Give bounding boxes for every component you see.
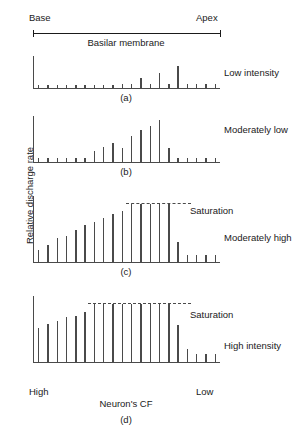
panel-d-saturation-label: Saturation <box>190 309 233 320</box>
bar <box>140 78 141 88</box>
bar <box>215 354 216 362</box>
bar <box>84 158 85 162</box>
panel-d-bars <box>34 296 220 362</box>
bar <box>150 304 151 362</box>
panel-b: Moderately low (b) <box>0 116 298 182</box>
panel-c: Saturation Moderately high (c) <box>0 196 298 282</box>
bar <box>66 317 67 362</box>
bar <box>196 255 197 262</box>
bar <box>66 158 67 162</box>
bar <box>187 84 188 88</box>
panel-a-plot <box>33 56 220 89</box>
bar <box>131 136 132 162</box>
bar <box>122 148 123 162</box>
bar <box>196 354 197 362</box>
bar <box>103 218 104 262</box>
bar <box>75 158 76 162</box>
bar <box>122 211 123 262</box>
bar <box>84 312 85 362</box>
bar <box>131 204 132 262</box>
bar <box>38 328 39 362</box>
bar <box>122 304 123 362</box>
panel-b-plot <box>33 116 220 163</box>
panel-d-plot <box>33 296 220 363</box>
x-axis-left-label: High <box>29 386 49 397</box>
bar <box>94 222 95 262</box>
panel-c-letter: (c) <box>33 266 219 277</box>
bar <box>177 66 178 88</box>
bar <box>159 204 160 262</box>
bar <box>112 214 113 262</box>
bar <box>57 238 58 262</box>
bar <box>205 255 206 262</box>
bar <box>75 85 76 88</box>
bar <box>112 304 113 362</box>
bar <box>177 242 178 262</box>
bar <box>150 126 151 162</box>
bar <box>112 85 113 88</box>
bar <box>215 84 216 88</box>
bar <box>159 120 160 162</box>
bar <box>75 230 76 262</box>
bar <box>84 85 85 88</box>
bar <box>196 158 197 162</box>
membrane-extent-bar <box>33 30 221 37</box>
bar <box>215 158 216 162</box>
bar <box>168 204 169 262</box>
bar <box>168 84 169 88</box>
bar <box>47 158 48 162</box>
bar <box>177 158 178 162</box>
membrane-rule <box>34 33 220 34</box>
bar <box>187 158 188 162</box>
bar <box>47 245 48 262</box>
panel-c-intensity-label: Moderately high <box>224 232 292 243</box>
bar <box>140 304 141 362</box>
panel-b-bars <box>34 116 220 162</box>
saturation-line <box>126 203 191 204</box>
bar <box>168 148 169 162</box>
bar <box>159 73 160 88</box>
bar <box>103 304 104 362</box>
bar <box>205 84 206 88</box>
bar <box>205 354 206 362</box>
bar <box>140 204 141 262</box>
panel-d-intensity-label: High intensity <box>224 340 281 351</box>
base-label: Base <box>29 12 51 23</box>
bar <box>150 84 151 88</box>
bar <box>47 85 48 88</box>
bar <box>47 324 48 362</box>
bar <box>75 316 76 362</box>
bar <box>57 85 58 88</box>
bar <box>66 236 67 262</box>
bar <box>205 158 206 162</box>
bar <box>187 255 188 262</box>
x-axis-right-label: Low <box>196 386 213 397</box>
bar <box>122 84 123 88</box>
bar <box>94 304 95 362</box>
bar <box>84 225 85 262</box>
bar <box>150 204 151 262</box>
bar <box>215 255 216 262</box>
membrane-caption: Basilar membrane <box>33 37 219 49</box>
bar <box>57 321 58 362</box>
panel-b-letter: (b) <box>33 166 219 177</box>
basilar-membrane-scale: Base Apex Basilar membrane <box>0 0 298 52</box>
panel-a-bars <box>34 56 220 88</box>
bar <box>196 84 197 88</box>
bar <box>38 158 39 162</box>
apex-label: Apex <box>196 12 218 23</box>
panel-a: Low intensity (a) <box>0 56 298 108</box>
bar <box>177 325 178 362</box>
bar <box>38 85 39 88</box>
figure-root: Base Apex Basilar membrane Relative disc… <box>0 0 298 435</box>
panel-b-intensity-label: Moderately low <box>224 124 288 135</box>
saturation-line <box>88 303 190 304</box>
x-axis-title: Neuron's CF <box>33 398 219 409</box>
panel-a-letter: (a) <box>33 92 219 103</box>
bar <box>131 304 132 362</box>
bar <box>131 84 132 88</box>
bar <box>57 158 58 162</box>
panel-d: Saturation High intensity <box>0 296 298 382</box>
bar <box>187 349 188 362</box>
bar <box>66 85 67 88</box>
